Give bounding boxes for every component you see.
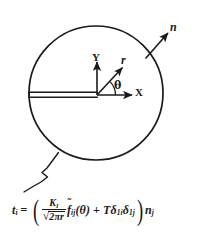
angular-function-term: ̃f ij(θ) (67, 203, 90, 218)
x-axis-label: X (135, 87, 143, 98)
t-stress-term: Tδ1iδ1j (103, 203, 135, 218)
theta-angle-label: θ (114, 80, 121, 91)
leader-squiggle (24, 153, 59, 193)
open-paren: ( (32, 199, 38, 221)
crack-slit (29, 92, 97, 97)
traction-equation: ti = ( KI √ 2πr ̃f ij(θ) + Tδ1iδ1j (12, 198, 154, 222)
equals-sign: = (21, 203, 28, 218)
fraction-denominator: √ 2πr (42, 211, 66, 223)
fraction-numerator: KI (48, 198, 59, 208)
T-symbol: T (103, 203, 110, 218)
normal-vector-label: n (170, 21, 177, 33)
lhs-subscript: i (15, 208, 17, 217)
y-axis-label: Y (92, 52, 100, 63)
f-argument: (θ) (75, 203, 90, 218)
stress-intensity-fraction: KI √ 2πr (42, 198, 66, 222)
delta1-subscript: 1i (117, 208, 123, 217)
n-subscript: j (152, 208, 154, 217)
normal-component-term: nj (145, 203, 154, 218)
normal-vector-arrow (146, 33, 169, 59)
close-paren: ) (137, 199, 143, 221)
n-symbol: n (145, 203, 152, 218)
delta2-subscript: 1j (129, 208, 135, 217)
figure-root: n r Y X θ ti = ( KI √ 2πr ̃f ij(θ) (0, 0, 207, 234)
equation-lhs: ti (12, 203, 18, 218)
f-subscript: ij (71, 208, 75, 217)
plus-sign: + (93, 203, 100, 218)
radial-label: r (121, 54, 126, 66)
square-root: √ 2πr (43, 211, 65, 223)
